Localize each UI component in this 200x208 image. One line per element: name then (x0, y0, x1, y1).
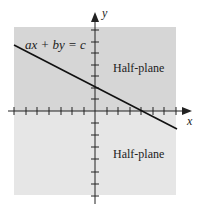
y-axis-label: y (102, 6, 107, 21)
upper-half-plane-label: Half-plane (113, 61, 164, 76)
x-axis-label: x (187, 114, 192, 129)
equation-label: ax + by = c (25, 37, 86, 53)
lower-half-plane-label: Half-plane (113, 147, 164, 162)
coordinate-plane (0, 0, 200, 208)
y-axis-arrow-icon (91, 12, 99, 22)
